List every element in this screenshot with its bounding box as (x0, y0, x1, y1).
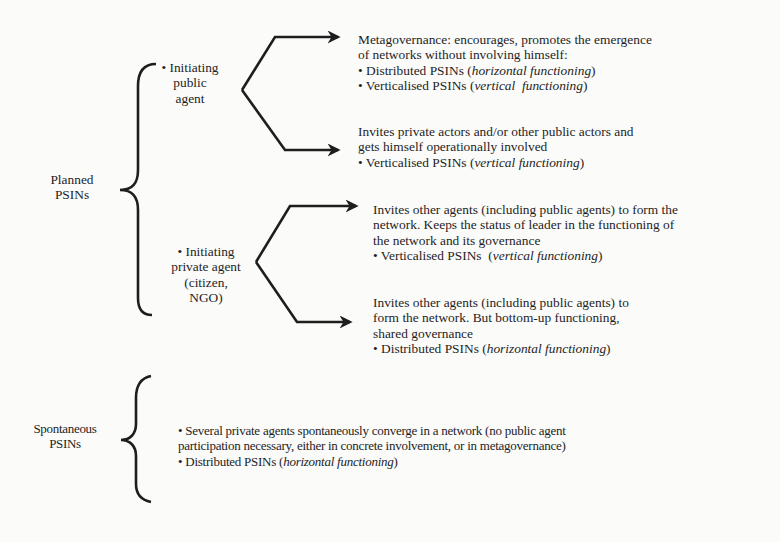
outcome-private-leader: Invites other agents (including public a… (373, 202, 678, 264)
label-line: PSINs (22, 436, 108, 451)
outcome-text-line: shared governance (373, 326, 629, 341)
outcome-shared-governance: Invites other agents (including public a… (373, 295, 629, 357)
description-bullet: • Distributed PSINs (horizontal function… (178, 454, 566, 469)
outcome-text-line: form the network. But bottom-up function… (373, 310, 629, 325)
outcome-text-line: Invites private actors and/or other publ… (358, 124, 634, 139)
description-line: • Several private agents spontaneously c… (178, 423, 566, 438)
label-line: • Initiating (156, 244, 256, 259)
label-line: PSINs (36, 187, 108, 202)
outcome-bullet: • Distributed PSINs (horizontal function… (358, 63, 652, 78)
outcome-text-line: Invites other agents (including public a… (373, 202, 678, 217)
outcome-text-line: gets himself operationally involved (358, 139, 634, 154)
initiating-private-agent-label: • Initiating private agent (citizen, NGO… (156, 244, 256, 306)
label-line: Planned (36, 172, 108, 187)
label-line: agent (150, 91, 230, 106)
label-line: NGO) (156, 290, 256, 305)
outcome-metagovernance: Metagovernance: encourages, promotes the… (358, 32, 652, 94)
spontaneous-psins-label: Spontaneous PSINs (22, 421, 108, 452)
outcome-text-line: Invites other agents (including public a… (373, 295, 629, 310)
outcome-text-line: network. Keeps the status of leader in t… (373, 217, 678, 232)
label-line: public (150, 75, 230, 90)
private-agent-upper-arrow-icon (256, 206, 356, 262)
initiating-public-agent-label: • Initiating public agent (150, 60, 230, 106)
outcome-bullet: • Distributed PSINs (horizontal function… (373, 341, 629, 356)
description-line: participation necessary, either in concr… (178, 438, 566, 453)
spontaneous-description: • Several private agents spontaneously c… (178, 423, 566, 469)
outcome-bullet: • Verticalised PSINs (vertical functioni… (358, 155, 634, 170)
public-agent-upper-arrow-icon (242, 37, 338, 90)
planned-psins-label: Planned PSINs (36, 172, 108, 203)
outcome-text-line: Metagovernance: encourages, promotes the… (358, 32, 652, 47)
public-agent-lower-arrow-icon (242, 90, 338, 150)
outcome-operational-involvement: Invites private actors and/or other publ… (358, 124, 634, 170)
outcome-text-line: the network and its governance (373, 233, 678, 248)
private-agent-lower-arrow-icon (256, 262, 350, 322)
outcome-bullet: • Verticalised PSINs (vertical functioni… (358, 78, 652, 93)
label-line: • Initiating (150, 60, 230, 75)
label-line: private agent (156, 259, 256, 274)
label-line: Spontaneous (22, 421, 108, 436)
spontaneous-brace-icon (121, 376, 151, 502)
label-line: (citizen, (156, 275, 256, 290)
outcome-text-line: of networks without involving himself: (358, 47, 652, 62)
outcome-bullet: • Verticalised PSINs (vertical functioni… (373, 248, 678, 263)
